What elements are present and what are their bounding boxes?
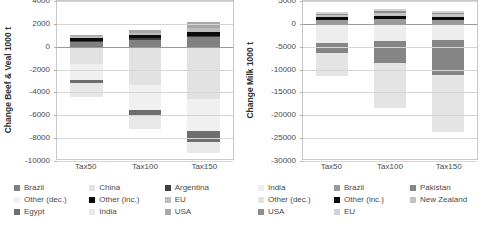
- legend-item[interactable]: USA: [258, 207, 332, 216]
- legend-item[interactable]: Other (dec.): [14, 195, 87, 204]
- bar-segment-usa: [374, 11, 406, 13]
- legend-item[interactable]: Other (dec.): [258, 195, 332, 204]
- stacked-bar-tax150[interactable]: [187, 1, 220, 161]
- y-axis-tick-label: -30000: [271, 156, 296, 165]
- y-axis-tick-label: 0: [292, 18, 296, 27]
- x-axis-tick-label: Tax150: [419, 162, 478, 178]
- stacked-bar-tax50[interactable]: [316, 1, 348, 161]
- bar-segment-other-dec: [432, 75, 464, 133]
- y-axis-tick-labels-milk: 50000-5000-10000-15000-20000-25000-30000: [258, 0, 298, 160]
- bar-segment-china: [70, 47, 103, 64]
- axis-tick-mark: [300, 138, 303, 139]
- axis-tick-mark: [54, 70, 57, 71]
- bar-segment-usa: [432, 13, 464, 15]
- legend-item[interactable]: Brazil: [334, 183, 408, 192]
- bar-segment-other-dec: [70, 64, 103, 81]
- legend-swatch-icon: [258, 197, 264, 203]
- legend-label: China: [99, 183, 120, 192]
- legend-swatch-icon: [410, 185, 416, 191]
- legend-item[interactable]: Other (inc.): [334, 195, 408, 204]
- gridline: [303, 24, 477, 25]
- legend-label: Egypt: [24, 207, 44, 216]
- legend-item[interactable]: Egypt: [14, 207, 87, 216]
- legend-label: EU: [175, 195, 186, 204]
- legend-item[interactable]: Brazil: [14, 183, 87, 192]
- legend-item[interactable]: China: [89, 183, 162, 192]
- legend-item[interactable]: Other (inc.): [89, 195, 162, 204]
- bar-segment-other-inc: [432, 17, 464, 20]
- legend-swatch-icon: [410, 197, 416, 203]
- y-axis-tick-label: 4000: [32, 0, 50, 5]
- bar-segment-india: [129, 116, 162, 129]
- x-axis-tick-label: Tax100: [361, 162, 420, 178]
- y-axis-title-milk: Change Milk 1000 t: [242, 0, 258, 160]
- legend-label: India: [268, 183, 285, 192]
- bar-segment-eu: [432, 11, 464, 13]
- legend-milk: IndiaBrazilPakistanOther (dec.)Other (in…: [258, 183, 484, 216]
- y-axis-tick-label: -2000: [30, 64, 50, 73]
- gridline: [303, 1, 477, 2]
- legend-swatch-icon: [258, 209, 264, 215]
- legend-swatch-icon: [334, 209, 340, 215]
- bar-segment-brazil: [129, 40, 162, 47]
- axis-tick-mark: [54, 138, 57, 139]
- bar-segment-eu: [129, 33, 162, 35]
- legend-label: Other (dec.): [24, 195, 67, 204]
- gridline: [303, 70, 477, 71]
- x-axis-tick-labels-milk: Tax50Tax100Tax150: [302, 162, 478, 178]
- bar-segment-usa: [70, 35, 103, 36]
- legend-item[interactable]: New Zealand: [410, 195, 484, 204]
- legend-label: USA: [175, 207, 191, 216]
- stacked-bar-tax100[interactable]: [374, 1, 406, 161]
- y-axis-tick-label: -15000: [271, 87, 296, 96]
- stacked-bar-tax100[interactable]: [129, 1, 162, 161]
- bar-segment-usa: [129, 30, 162, 33]
- bar-segment-new-zealand: [374, 13, 406, 16]
- x-axis-tick-labels-beef-veal: Tax50Tax100Tax150: [56, 162, 234, 178]
- y-axis-tick-label: -20000: [271, 110, 296, 119]
- bar-segment-china: [129, 47, 162, 85]
- bar-segment-india: [432, 24, 464, 40]
- legend-label: USA: [268, 207, 284, 216]
- bar-segment-usa: [187, 22, 220, 28]
- bar-segment-new-zealand: [316, 15, 348, 17]
- bar-segment-india: [70, 83, 103, 97]
- legend-item[interactable]: USA: [165, 207, 238, 216]
- y-axis-tick-label: -4000: [30, 87, 50, 96]
- bar-segment-pakistan: [374, 41, 406, 63]
- legend-item[interactable]: India: [89, 207, 162, 216]
- stacked-bar-tax50[interactable]: [70, 1, 103, 161]
- axis-tick-mark: [300, 47, 303, 48]
- bar-segment-other-inc: [70, 38, 103, 41]
- legend-item[interactable]: EU: [334, 207, 408, 216]
- y-axis-tick-label: -10000: [25, 156, 50, 165]
- legend-swatch-icon: [89, 185, 95, 191]
- legend-item[interactable]: Pakistan: [410, 183, 484, 192]
- two-panel-stacked-bar-figure: Change Beef & Veal 1000 t 400020000-2000…: [0, 0, 485, 232]
- axis-tick-mark: [54, 24, 57, 25]
- legend-swatch-icon: [258, 185, 264, 191]
- y-axis-tick-labels-beef-veal: 400020000-2000-4000-6000-8000-10000: [14, 0, 52, 160]
- chart-panel-milk: Change Milk 1000 t 50000-5000-10000-1500…: [242, 0, 485, 232]
- axis-tick-mark: [300, 70, 303, 71]
- legend-label: Other (inc.): [344, 195, 384, 204]
- y-axis-tick-label: -25000: [271, 133, 296, 142]
- bar-segment-egypt: [187, 131, 220, 142]
- stacked-bar-tax150[interactable]: [432, 1, 464, 161]
- gridline: [57, 92, 233, 93]
- bar-segment-eu: [374, 9, 406, 11]
- legend-item[interactable]: India: [258, 183, 332, 192]
- gridline: [303, 47, 477, 48]
- bar-segment-usa: [316, 14, 348, 15]
- gridline: [57, 47, 233, 48]
- bar-segment-other-inc: [187, 32, 220, 36]
- y-axis-title-label: Change Beef & Veal 1000 t: [3, 27, 13, 133]
- legend-swatch-icon: [14, 197, 20, 203]
- bar-segment-pakistan: [316, 43, 348, 53]
- legend-swatch-icon: [165, 185, 171, 191]
- legend-item[interactable]: EU: [165, 195, 238, 204]
- legend-item[interactable]: Argentina: [165, 183, 238, 192]
- bar-segment-india: [374, 24, 406, 41]
- legend-label: New Zealand: [420, 195, 467, 204]
- gridline: [303, 115, 477, 116]
